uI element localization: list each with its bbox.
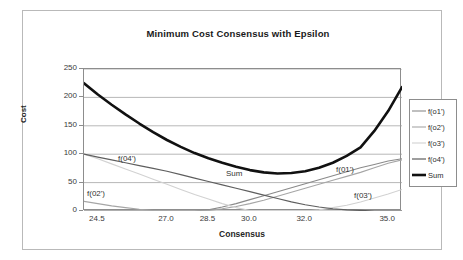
y-axis-tick-label: 50 <box>47 177 77 186</box>
legend-item[interactable]: f(o4') <box>412 151 454 167</box>
legend-item[interactable]: Sum <box>412 167 454 183</box>
legend-line-swatch-icon <box>412 154 426 164</box>
series-annotation: Sum <box>226 169 242 178</box>
legend-line-swatch-icon <box>412 122 426 132</box>
x-axis-tick-label: 27.0 <box>146 214 186 223</box>
chart-legend: f(o1')f(o2')f(o3')f(o4')Sum <box>409 99 457 187</box>
plot-svg <box>84 69 402 211</box>
x-axis-tick-label: 28.5 <box>187 214 227 223</box>
legend-item-label: Sum <box>428 171 443 180</box>
y-axis-tick-label: 200 <box>47 91 77 100</box>
y-axis-tick-label: 0 <box>47 205 77 214</box>
legend-item[interactable]: f(o1') <box>412 103 454 119</box>
x-axis-tick-label: 24.5 <box>77 214 117 223</box>
chart-title: Minimum Cost Consensus with Epsilon <box>83 28 393 39</box>
x-axis-tick-label: 32.0 <box>284 214 324 223</box>
x-axis-tick-label: 35.0 <box>367 214 407 223</box>
series-annotation: f(04') <box>118 154 136 163</box>
legend-item-label: f(o4') <box>428 155 445 164</box>
legend-line-swatch-icon <box>412 138 426 148</box>
x-axis-tick-label: 30.0 <box>229 214 269 223</box>
y-axis-tick-label: 250 <box>47 63 77 72</box>
series-annotation: f(03') <box>354 191 372 200</box>
legend-item[interactable]: f(o3') <box>412 135 454 151</box>
plot-area <box>83 68 401 210</box>
legend-item-label: f(o2') <box>428 123 445 132</box>
legend-item[interactable]: f(o2') <box>412 119 454 135</box>
screenshot-canvas: Minimum Cost Consensus with Epsilon Cost… <box>0 0 463 260</box>
x-axis-title: Consensus <box>83 229 401 239</box>
series-annotation: f(01') <box>336 165 354 174</box>
y-axis-tick-label: 100 <box>47 148 77 157</box>
y-axis-tick-mark <box>79 210 83 211</box>
chart-figure: Minimum Cost Consensus with Epsilon Cost… <box>22 10 442 250</box>
legend-item-label: f(o3') <box>428 139 445 148</box>
legend-item-label: f(o1') <box>428 107 445 116</box>
legend-line-swatch-icon <box>412 106 426 116</box>
y-axis-title: Cost <box>19 105 28 123</box>
series-annotation: f(02') <box>87 189 105 198</box>
y-axis-tick-label: 150 <box>47 120 77 129</box>
legend-line-swatch-icon <box>412 170 426 180</box>
